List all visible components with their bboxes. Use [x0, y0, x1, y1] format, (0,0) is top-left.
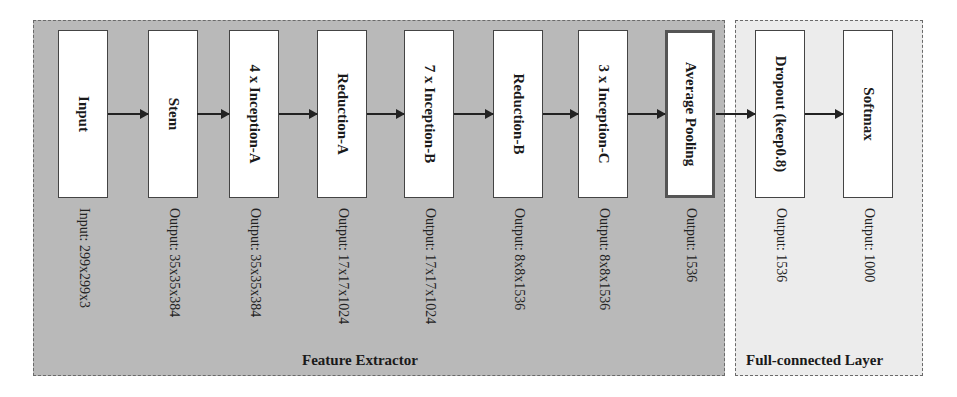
output-label: Output: 17x17x1024	[404, 208, 454, 368]
output-label: Output: 17x17x1024	[317, 208, 367, 368]
block-inception-c: 3 x Inception-C	[578, 30, 628, 198]
block-softmax: Softmax	[843, 30, 893, 198]
block-inception-a: 4 x Inception-A	[229, 30, 279, 198]
output-text: Output: 1536	[773, 208, 789, 282]
arrow-icon	[197, 113, 229, 115]
output-text: Output: 8x8x1536	[596, 208, 612, 310]
arrow-icon	[543, 113, 578, 115]
block-label: Dropout (keep0.8)	[772, 56, 789, 172]
output-label: Output: 35x35x384	[148, 208, 198, 368]
arrow-icon	[279, 113, 317, 115]
output-label: Output: 1536	[755, 208, 805, 368]
block-dropout: Dropout (keep0.8)	[755, 30, 805, 198]
output-text: Output: 1536	[683, 208, 699, 282]
output-label: Output: 8x8x1536	[578, 208, 628, 368]
output-text: Output: 17x17x1024	[335, 208, 351, 324]
output-text: Output: 8x8x1536	[511, 208, 527, 310]
block-label: Average Pooling	[682, 62, 699, 166]
block-label: Reduction-A	[334, 73, 351, 155]
block-inception-b: 7 x Inception-B	[404, 30, 454, 198]
output-text: Output: 35x35x384	[166, 208, 182, 317]
block-average-pooling: Average Pooling	[665, 30, 715, 198]
output-text: Output: 17x17x1024	[422, 208, 438, 324]
block-label: Input	[75, 96, 92, 132]
block-label: Stem	[165, 98, 182, 131]
arrow-icon	[716, 113, 755, 115]
block-label: 7 x Inception-B	[421, 65, 438, 163]
block-label: 3 x Inception-C	[595, 64, 612, 163]
block-label: Reduction-B	[510, 74, 527, 155]
arrow-icon	[454, 113, 493, 115]
arrow-icon	[805, 113, 843, 115]
arrow-icon	[108, 113, 148, 115]
arrow-icon	[628, 113, 665, 115]
output-text: Output: 1000	[861, 208, 877, 282]
block-label: 4 x Inception-A	[246, 64, 263, 163]
block-input: Input	[58, 30, 108, 198]
output-label: Output: 1536	[665, 208, 715, 368]
output-label: Output: 8x8x1536	[493, 208, 543, 368]
output-label: Output: 35x35x384	[229, 208, 279, 368]
block-reduction-a: Reduction-A	[317, 30, 367, 198]
block-label: Softmax	[860, 87, 877, 140]
output-label: Output: 1000	[843, 208, 893, 368]
output-label: Input: 299x299x3	[58, 208, 108, 368]
block-stem: Stem	[148, 30, 198, 198]
output-text: Input: 299x299x3	[76, 208, 92, 308]
arrow-icon	[367, 113, 404, 115]
output-text: Output: 35x35x384	[247, 208, 263, 317]
block-reduction-b: Reduction-B	[493, 30, 543, 198]
